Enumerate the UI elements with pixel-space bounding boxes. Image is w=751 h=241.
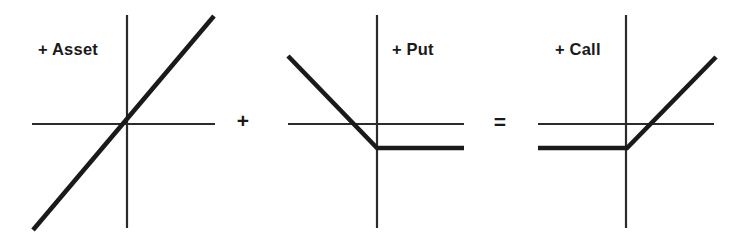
panel-call: + Call [538, 15, 716, 228]
plus-operator: + [237, 109, 249, 132]
asset-panel-label: + Asset [38, 40, 98, 58]
payoff-diagram-canvas: + Asset + + Put = + Call [0, 0, 751, 241]
call-panel-label: + Call [555, 40, 601, 58]
panel-put: + Put [288, 15, 464, 228]
payoff-diagram-figure: + Asset + + Put = + Call [0, 0, 751, 241]
panel-asset: + Asset [32, 15, 215, 230]
put-panel-label: + Put [392, 40, 434, 58]
equals-operator: = [494, 110, 506, 133]
